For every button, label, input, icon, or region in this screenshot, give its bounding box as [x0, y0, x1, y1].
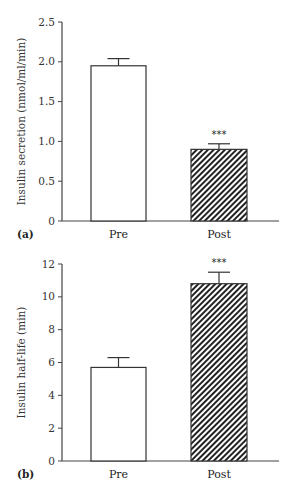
panel-label: (b) — [17, 468, 34, 480]
y-tick-label: 2.5 — [38, 16, 55, 28]
y-tick-label: 6 — [48, 356, 55, 368]
significance-marker: *** — [212, 129, 227, 140]
chart-panel-a: 00.51.01.52.02.5Insulin secretion (nmol/… — [15, 16, 279, 242]
panel-label: (a) — [17, 228, 34, 240]
figure: 00.51.01.52.02.5Insulin secretion (nmol/… — [0, 0, 293, 495]
y-tick-label: 8 — [48, 323, 55, 335]
x-category-label: Post — [207, 468, 231, 481]
y-axis-title: Insulin secretion (nmol/ml/min) — [15, 38, 27, 206]
y-tick-label: 0 — [48, 215, 55, 227]
y-tick-label: 10 — [42, 290, 55, 302]
x-category-label: Post — [207, 228, 231, 241]
y-tick-label: 4 — [48, 389, 55, 401]
y-tick-label: 0.5 — [38, 175, 55, 187]
x-category-label: Pre — [109, 228, 128, 241]
y-axis-title: Insulin half-life (min) — [15, 307, 27, 419]
y-tick-label: 0 — [48, 455, 55, 467]
y-tick-label: 1.0 — [38, 135, 55, 147]
chart-panel-b: 024681012Insulin half-life (min)Pre***Po… — [15, 257, 279, 481]
bar-post — [191, 149, 247, 221]
y-tick-label: 2 — [48, 422, 55, 434]
y-tick-label: 1.5 — [38, 95, 55, 107]
significance-marker: *** — [212, 257, 227, 268]
x-category-label: Pre — [109, 468, 128, 481]
bar-post — [191, 284, 247, 461]
bar-pre — [91, 66, 146, 221]
y-tick-label: 12 — [42, 258, 55, 270]
bar-pre — [91, 367, 146, 461]
y-tick-label: 2.0 — [38, 55, 55, 67]
